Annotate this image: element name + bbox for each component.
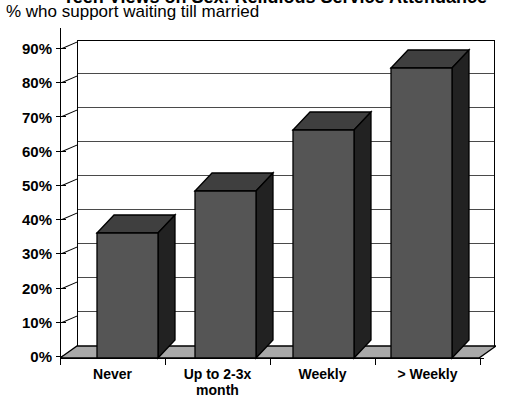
y-axis-label-20: 20%	[4, 281, 52, 296]
y-axis-label-70: 70%	[4, 110, 52, 125]
x-axis-label-weekly: Weekly	[270, 366, 375, 382]
y-axis-line	[60, 28, 61, 358]
bar-greater-than-weekly	[391, 50, 471, 368]
y-axis-label-60: 60%	[4, 144, 52, 159]
x-axis-label-never: Never	[60, 366, 165, 382]
x-tick-3	[375, 358, 376, 365]
bar-weekly-front	[293, 130, 354, 358]
bar-up-to-2-3x-month-front	[195, 191, 256, 358]
bar-up-to-2-3x-month-side	[256, 173, 273, 358]
x-tick-0	[60, 358, 61, 365]
bar-never-front	[97, 233, 158, 358]
y-axis-label-90: 90%	[4, 41, 52, 56]
x-axis-label-greater-than-weekly: > Weekly	[375, 366, 480, 382]
chart-subtitle: % who support waiting till married	[6, 2, 259, 22]
bar-never	[97, 215, 177, 365]
y-axis-label-80: 80%	[4, 75, 52, 90]
bar-weekly-side	[354, 112, 371, 358]
bar-chart: Teen Views on Sex: Religious Service Att…	[0, 0, 517, 405]
bar-greater-than-weekly-front	[391, 68, 452, 358]
x-axis-label-greater-than-weekly-line1: > Weekly	[375, 366, 480, 382]
x-axis-label-never-line1: Never	[60, 366, 165, 382]
y-axis-label-0: 0%	[4, 349, 52, 364]
bar-weekly	[293, 112, 373, 367]
y-axis-label-40: 40%	[4, 212, 52, 227]
x-axis-label-up-to-2-3x-month-line2: month	[165, 382, 270, 398]
x-axis-line	[60, 358, 484, 359]
x-axis-label-weekly-line1: Weekly	[270, 366, 375, 382]
y-axis-label-30: 30%	[4, 246, 52, 261]
x-tick-4	[480, 358, 481, 365]
x-axis-label-up-to-2-3x-month: Up to 2-3x month	[165, 366, 270, 398]
y-axis-label-50: 50%	[4, 178, 52, 193]
bar-up-to-2-3x-month	[195, 173, 275, 368]
y-axis-label-10: 10%	[4, 315, 52, 330]
x-tick-2	[270, 358, 271, 365]
bar-never-side	[158, 215, 175, 358]
x-axis-label-up-to-2-3x-month-line1: Up to 2-3x	[165, 366, 270, 382]
bar-greater-than-weekly-side	[452, 50, 469, 358]
x-tick-1	[165, 358, 166, 365]
